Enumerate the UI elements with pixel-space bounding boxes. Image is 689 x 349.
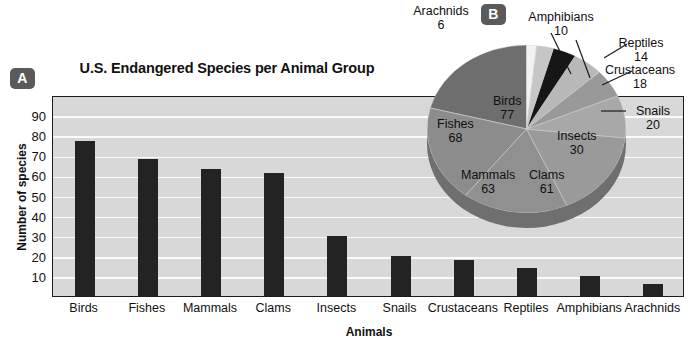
- y-axis-tick-label: 30: [10, 229, 46, 244]
- bar: [517, 268, 537, 296]
- figure-root: A U.S. Endangered Species per Animal Gro…: [0, 0, 689, 349]
- bar: [391, 256, 411, 296]
- bar: [138, 159, 158, 296]
- y-axis-tick-label: 40: [10, 209, 46, 224]
- x-axis-tick-label: Insects: [317, 301, 357, 315]
- x-axis-title: Animals: [52, 325, 686, 339]
- pie-callout-crustaceans: Crustaceans 18: [594, 64, 686, 91]
- pie-slice-label-birds: Birds 77: [493, 95, 521, 122]
- bar: [75, 141, 95, 296]
- pie-callout-amphibians: Amphibians 10: [517, 11, 605, 38]
- pie-slice-label-fishes: Fishes 68: [437, 118, 474, 145]
- y-axis-tick-label: 20: [10, 249, 46, 264]
- y-axis-tick-label: 90: [10, 109, 46, 124]
- panel-badge-a: A: [10, 68, 35, 89]
- x-axis-tick-label: Fishes: [128, 301, 165, 315]
- bar: [580, 276, 600, 296]
- x-axis-tick-label: Clams: [255, 301, 290, 315]
- y-axis-tick-label: 10: [10, 269, 46, 284]
- bar: [643, 284, 663, 296]
- bar: [327, 236, 347, 296]
- x-axis-tick-label: Amphibians: [557, 301, 622, 315]
- y-axis-tick-label: 80: [10, 129, 46, 144]
- pie-slice-label-clams: Clams 61: [529, 169, 564, 196]
- x-axis-tick-label: Snails: [383, 301, 417, 315]
- pie-slice-label-mammals: Mammals 63: [461, 169, 515, 196]
- y-axis-tick-label: 60: [10, 169, 46, 184]
- panel-badge-b: B: [481, 4, 506, 25]
- y-axis-tick-labels: 102030405060708090: [8, 96, 46, 297]
- bar: [201, 169, 221, 296]
- x-axis-tick-label: Arachnids: [625, 301, 681, 315]
- bar: [454, 260, 474, 296]
- x-axis-tick-label: Reptiles: [503, 301, 548, 315]
- x-axis-tick-label: Birds: [69, 301, 97, 315]
- pie-slice-label-insects: Insects 30: [557, 130, 597, 157]
- pie-callout-reptiles: Reptiles 14: [605, 37, 677, 64]
- bar: [264, 173, 284, 296]
- x-axis-tick-label: Crustaceans: [428, 301, 498, 315]
- bar-chart-title: U.S. Endangered Species per Animal Group: [52, 60, 402, 76]
- x-axis-tick-label: Mammals: [183, 301, 237, 315]
- y-axis-tick-label: 50: [10, 189, 46, 204]
- pie-callout-snails: Snails 20: [624, 105, 682, 132]
- pie-callout-arachnids: Arachnids 6: [401, 5, 481, 32]
- y-axis-tick-label: 70: [10, 149, 46, 164]
